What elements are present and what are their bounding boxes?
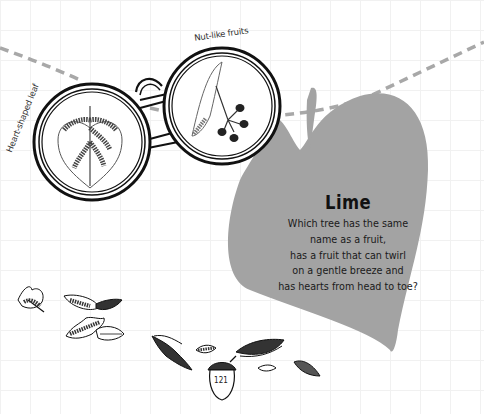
acorn-icon [0,0,484,414]
page-number: 121 [212,375,230,385]
